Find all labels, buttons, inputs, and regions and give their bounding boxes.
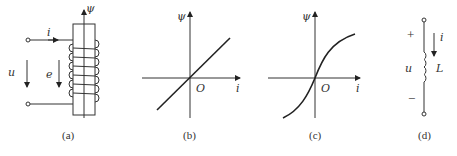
svg-text:i: i: [440, 31, 444, 44]
terminal-top: [26, 38, 30, 42]
label-psi: ψ: [86, 2, 95, 15]
linear-curve: [157, 38, 230, 110]
svg-text:L: L: [435, 62, 443, 75]
svg-text:−: −: [408, 91, 415, 106]
panel-c-nonlinear-chart: ψ i O (c): [268, 10, 360, 142]
svg-text:O: O: [196, 82, 205, 95]
svg-text:ψ: ψ: [302, 10, 311, 23]
terminal-bottom: [26, 102, 30, 106]
inductor-figure: ψ i u e (a) ψ i O (b) ψ i O (c) + − u i …: [0, 0, 457, 156]
caption-d: (d): [418, 129, 431, 142]
svg-text:ψ: ψ: [177, 10, 186, 23]
svg-text:i: i: [356, 82, 360, 95]
panel-d-inductor-symbol: + − u i L (d): [405, 18, 444, 142]
label-e: e: [46, 68, 53, 81]
caption-c: (c): [309, 129, 322, 142]
label-i: i: [47, 26, 51, 39]
caption-a: (a): [62, 129, 75, 142]
svg-text:i: i: [236, 82, 240, 95]
inductor-coil-icon: [424, 52, 426, 82]
caption-b: (b): [183, 129, 196, 142]
saturation-curve: [283, 34, 355, 118]
svg-text:O: O: [321, 82, 330, 95]
panel-a-coil: ψ i u e (a): [8, 2, 99, 142]
panel-b-linear-chart: ψ i O (b): [142, 10, 240, 142]
svg-text:u: u: [405, 62, 412, 75]
svg-text:+: +: [407, 27, 414, 42]
label-u: u: [8, 66, 15, 79]
